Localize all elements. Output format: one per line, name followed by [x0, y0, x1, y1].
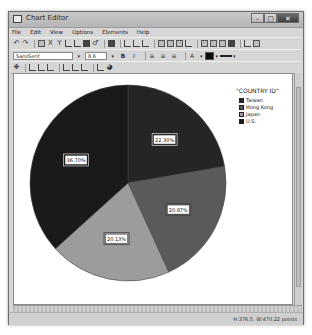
undo-icon[interactable]: ↶	[13, 40, 20, 47]
legend-label: U.S.	[246, 118, 256, 124]
title-bar[interactable]: Chart Editor – □ ✕	[9, 12, 303, 28]
bold-button[interactable]: B	[120, 52, 126, 59]
scale-icon[interactable]	[74, 40, 81, 47]
window-controls: – □ ✕	[251, 13, 299, 23]
close-button[interactable]: ✕	[277, 13, 299, 23]
transpose-icon[interactable]	[219, 40, 226, 47]
toolbar-separator	[25, 64, 26, 72]
explode-slice-icon[interactable]	[244, 40, 251, 47]
legend-label: Hong Kong	[246, 104, 273, 110]
font-family-value: SansSerif	[16, 53, 39, 59]
legend-item-hong-kong[interactable]: Hong Kong	[239, 104, 279, 110]
italic-button[interactable]: I	[131, 52, 137, 59]
align-right-icon[interactable]: ≡	[171, 52, 177, 59]
chevron-down-icon: ▾	[200, 53, 203, 59]
legend-swatch	[239, 112, 244, 117]
legend-title: "COUNTRY ID"	[236, 87, 279, 94]
line-chart-icon[interactable]	[133, 40, 140, 47]
status-bar: H:376.5, W:470.22 points	[9, 312, 303, 325]
align-left-icon[interactable]: ≡	[149, 52, 155, 59]
chart-dimensions: H:376.5, W:470.22 points	[233, 316, 297, 322]
chevron-down-icon: ▾	[77, 53, 80, 59]
menu-options[interactable]: Options	[72, 29, 93, 35]
font-size-select[interactable]: 8.6 ▾	[85, 52, 107, 60]
legend-label: Japan	[246, 111, 260, 117]
legend-swatch	[239, 105, 244, 110]
maximize-button[interactable]: □	[264, 13, 277, 23]
app-icon	[13, 15, 22, 23]
toolbar-separator	[104, 40, 105, 48]
toolbar-separator	[154, 40, 155, 48]
menu-view[interactable]: View	[50, 29, 63, 35]
toolbar-separator	[120, 40, 121, 48]
chart-properties-icon[interactable]	[108, 40, 115, 47]
chevron-down-icon: ▾	[216, 53, 219, 59]
bar-style-icon[interactable]	[29, 64, 36, 71]
title-icon[interactable]	[158, 40, 165, 47]
legend-item-us[interactable]: U.S.	[239, 118, 279, 124]
line-style-button[interactable]	[220, 55, 232, 57]
legend-item-taiwan[interactable]: Taiwan	[239, 97, 279, 103]
interpolation-icon[interactable]	[63, 64, 70, 71]
menu-file[interactable]: File	[12, 29, 21, 35]
font-size-value: 8.6	[88, 53, 96, 59]
slice-data-label[interactable]: 22.30%	[155, 137, 174, 143]
legend-swatch	[239, 98, 244, 103]
area-chart-icon[interactable]	[142, 40, 149, 47]
fill-icon[interactable]	[83, 40, 90, 47]
menu-edit[interactable]: Edit	[30, 29, 41, 35]
pie-chart[interactable]: 22.30%20.87%20.13%36.70%	[28, 83, 228, 283]
legend-icon[interactable]	[176, 40, 183, 47]
menu-help[interactable]: Help	[137, 29, 150, 35]
chart-legend[interactable]: "COUNTRY ID" Taiwan Hong Kong Japan U.S.	[236, 87, 279, 125]
pie-chart-icon[interactable]: ◕	[106, 64, 113, 71]
redo-icon[interactable]: ↷	[22, 40, 29, 47]
menu-elements[interactable]: Elements	[102, 29, 128, 35]
toolbar-separator	[59, 64, 60, 72]
vertical-scrollbar[interactable]	[294, 73, 302, 305]
minimize-button[interactable]: –	[251, 13, 264, 23]
chart-editor-window: Chart Editor – □ ✕ File Edit View Option…	[8, 11, 304, 325]
slice-data-label[interactable]: 20.13%	[107, 236, 126, 242]
spline-icon[interactable]	[81, 64, 88, 71]
window-title: Chart Editor	[26, 14, 68, 22]
scrollbar-thumb[interactable]	[296, 87, 301, 287]
chart-canvas[interactable]: 22.30%20.87%20.13%36.70% "COUNTRY ID" Ta…	[13, 73, 293, 305]
footnote-icon[interactable]	[167, 40, 174, 47]
lasso-icon[interactable]: ♂	[92, 40, 99, 47]
marker-icon[interactable]	[97, 64, 104, 71]
toolbar-separator	[185, 52, 186, 60]
pie-slice-taiwan[interactable]	[128, 85, 225, 183]
toolbar-separator	[93, 64, 94, 72]
cluster-bar-icon[interactable]	[38, 64, 45, 71]
chevron-down-icon: ▾	[111, 53, 114, 59]
toolbar-separator	[145, 52, 146, 60]
bar-chart-icon[interactable]	[124, 40, 131, 47]
grid-icon[interactable]	[185, 40, 192, 47]
step-line-icon[interactable]	[72, 64, 79, 71]
fill-color-button[interactable]	[205, 52, 214, 60]
select-chart-icon[interactable]	[38, 40, 45, 47]
legend-swatch	[239, 119, 244, 124]
text-color-button[interactable]: A	[189, 52, 195, 59]
chevron-down-icon: ▾	[233, 53, 236, 59]
toolbar-separator	[34, 40, 35, 48]
align-center-icon[interactable]: ≡	[160, 52, 166, 59]
data-labels-icon[interactable]	[201, 40, 208, 47]
x-axis-icon[interactable]: X	[47, 40, 54, 47]
toolbar-separator	[197, 40, 198, 48]
horizontal-scrollbar[interactable]	[13, 305, 302, 312]
legend-item-japan[interactable]: Japan	[239, 111, 279, 117]
y-axis-icon[interactable]: Y	[56, 40, 63, 47]
font-family-select[interactable]: SansSerif ▾	[13, 52, 73, 60]
slice-data-label[interactable]: 20.87%	[169, 207, 188, 213]
line-style-icon[interactable]	[47, 64, 54, 71]
toolbar-separator	[240, 40, 241, 48]
slice-data-label[interactable]: 36.70%	[67, 157, 86, 163]
table-icon[interactable]	[210, 40, 217, 47]
columns-icon[interactable]	[253, 40, 260, 47]
axis-line-icon[interactable]	[65, 40, 72, 47]
arrange-icon[interactable]	[228, 40, 235, 47]
menu-bar: File Edit View Options Elements Help	[9, 27, 303, 37]
move-icon[interactable]: ✥	[13, 64, 20, 71]
